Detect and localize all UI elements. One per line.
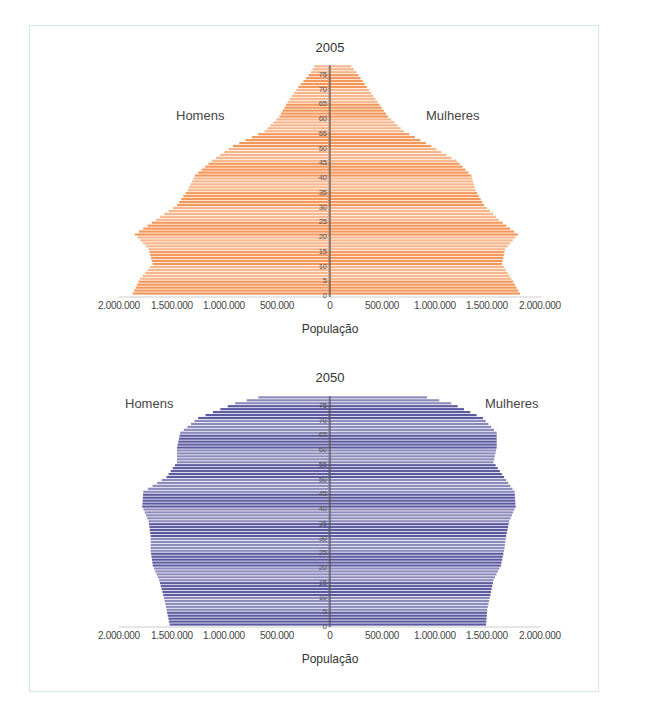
bar-female xyxy=(330,618,487,620)
bar-female xyxy=(330,615,487,617)
bar-female xyxy=(330,491,515,493)
bar-female xyxy=(330,597,490,599)
bar-female xyxy=(330,455,495,457)
bar-male xyxy=(187,426,330,428)
bar-male xyxy=(147,517,330,519)
bar-male xyxy=(151,538,330,540)
bar-male xyxy=(165,600,330,602)
bar-male xyxy=(180,435,330,437)
bar-male xyxy=(151,544,330,546)
bar-male xyxy=(142,502,330,504)
bar-female xyxy=(330,461,494,463)
bar-female xyxy=(330,585,492,587)
bar-male xyxy=(177,446,330,448)
x-tick: 2.000.000 xyxy=(505,630,575,641)
y-tick: 55 xyxy=(319,460,327,469)
bar-male xyxy=(155,570,330,572)
bar-male xyxy=(151,547,330,549)
bar-female xyxy=(330,570,498,572)
female-label: Mulheres xyxy=(485,396,538,411)
bar-male xyxy=(169,620,330,622)
bar-female xyxy=(330,538,506,540)
bar-female xyxy=(330,573,496,575)
bar-female xyxy=(330,532,507,534)
bar-female xyxy=(330,476,504,478)
bar-male xyxy=(163,594,330,596)
bar-male xyxy=(166,606,330,608)
bar-male xyxy=(167,612,330,614)
bar-male xyxy=(166,609,330,611)
bar-male xyxy=(143,494,330,496)
bar-female xyxy=(330,411,470,413)
bar-female xyxy=(330,550,504,552)
bar-male xyxy=(178,441,330,443)
chart-title: 2050 xyxy=(310,370,350,385)
bar-female xyxy=(330,576,495,578)
bar-male xyxy=(178,443,330,445)
bar-female xyxy=(330,591,491,593)
bar-male xyxy=(157,573,330,575)
bar-female xyxy=(330,417,483,419)
bar-female xyxy=(330,405,458,407)
bar-male xyxy=(180,432,330,434)
y-tick: 20 xyxy=(319,563,327,572)
bar-male xyxy=(162,479,330,481)
bar-male xyxy=(142,505,330,507)
bar-male xyxy=(150,529,330,531)
bar-female xyxy=(330,423,488,425)
bar-female xyxy=(330,612,487,614)
bar-male xyxy=(160,582,330,584)
bar-male xyxy=(152,561,330,563)
bar-female xyxy=(330,420,486,422)
bar-male xyxy=(161,585,330,587)
y-tick: 35 xyxy=(319,519,327,528)
pyramid-chart-2050: 051015202530354045505560657075 2050 Home… xyxy=(0,0,664,700)
bar-male xyxy=(153,485,330,487)
bar-male xyxy=(157,482,330,484)
bar-female xyxy=(330,426,491,428)
bar-female xyxy=(330,553,503,555)
bar-female xyxy=(330,517,511,519)
bar-male xyxy=(143,497,330,499)
bar-female xyxy=(330,497,515,499)
bar-female xyxy=(330,432,497,434)
bar-female xyxy=(330,464,496,466)
bar-male xyxy=(151,550,330,552)
bar-male xyxy=(149,520,330,522)
bar-male xyxy=(171,470,330,472)
bar-male xyxy=(143,508,330,510)
bar-female xyxy=(330,511,513,513)
y-tick: 30 xyxy=(319,534,327,543)
x-axis-label: População xyxy=(270,652,390,666)
bar-male xyxy=(162,588,330,590)
y-tick: 50 xyxy=(319,475,327,484)
bar-male xyxy=(151,553,330,555)
bar-female xyxy=(330,547,504,549)
bar-female xyxy=(330,467,498,469)
bar-male xyxy=(162,591,330,593)
bar-male xyxy=(165,603,330,605)
bar-female xyxy=(330,620,486,622)
bar-male xyxy=(149,526,330,528)
bar-male xyxy=(159,579,330,581)
y-tick: 15 xyxy=(319,578,327,587)
y-tick: 60 xyxy=(319,445,327,454)
bar-female xyxy=(330,623,486,625)
y-tick: 40 xyxy=(319,504,327,513)
bar-male xyxy=(164,597,330,599)
bar-female xyxy=(330,520,509,522)
bar-male xyxy=(153,564,330,566)
bar-male xyxy=(177,452,330,454)
bar-male xyxy=(206,414,330,416)
bar-female xyxy=(330,488,513,490)
bar-female xyxy=(330,606,488,608)
y-tick: 45 xyxy=(319,489,327,498)
bar-female xyxy=(330,541,505,543)
bar-female xyxy=(330,526,508,528)
bar-female xyxy=(330,559,502,561)
bar-female xyxy=(330,594,490,596)
bar-male xyxy=(168,615,330,617)
bar-male xyxy=(177,455,330,457)
bar-female xyxy=(330,514,512,516)
bar-male xyxy=(191,423,330,425)
